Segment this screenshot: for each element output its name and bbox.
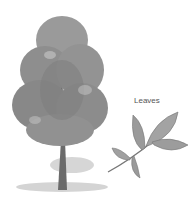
compound-leaf-illustration <box>100 100 195 180</box>
illustration: Leaves <box>0 0 195 204</box>
tree-illustration <box>0 0 110 204</box>
